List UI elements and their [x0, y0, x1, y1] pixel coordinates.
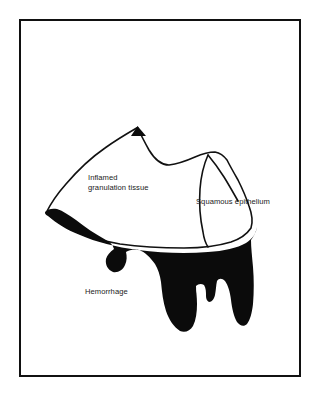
- inter-lobe-notch: [197, 286, 204, 299]
- label-squamous-epithelium: Squamous epithelium: [196, 197, 270, 207]
- label-inflamed-line-2: granulation tissue: [88, 183, 148, 193]
- label-inflamed-line-1: Inflamed: [88, 173, 148, 183]
- figure-root: Inflamed granulation tissue Squamous epi…: [0, 0, 319, 402]
- label-hemorrhage: Hemorrhage: [85, 287, 128, 297]
- label-inflamed-granulation-tissue: Inflamed granulation tissue: [88, 173, 148, 192]
- lesion-diagram: [0, 0, 319, 402]
